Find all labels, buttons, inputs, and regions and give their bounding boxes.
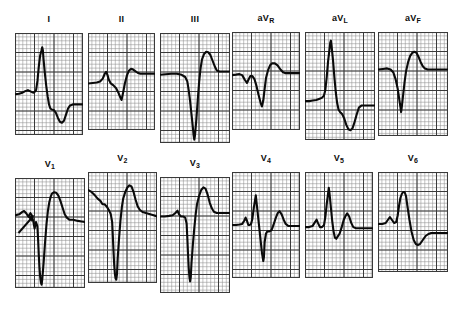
lead-label-v3: V3 xyxy=(160,158,230,169)
grid-fine xyxy=(305,172,373,278)
ecg-panel-v4 xyxy=(232,172,300,278)
ecg-grid-and-trace xyxy=(305,32,375,140)
ecg-panel-v5 xyxy=(305,172,373,278)
ecg-panel-ii xyxy=(88,33,155,130)
ecg-grid-and-trace xyxy=(232,32,300,130)
lead-label-subscript: 3 xyxy=(196,162,200,169)
lead-label-text: I xyxy=(48,14,51,24)
ecg-grid-and-trace xyxy=(305,172,373,278)
ecg-grid-and-trace xyxy=(88,172,157,283)
ecg-trace-avr xyxy=(232,63,300,106)
lead-label-ii: II xyxy=(88,14,155,24)
ecg-grid-and-trace xyxy=(15,33,83,135)
ecg-panel-avf xyxy=(378,32,448,136)
grid-fine xyxy=(15,178,85,288)
lead-label-subscript: 6 xyxy=(414,157,418,164)
lead-label-avr: aVR xyxy=(232,13,300,24)
ecg-panel-v1 xyxy=(15,178,85,288)
ecg-grid-and-trace xyxy=(160,177,230,293)
lead-label-avl: aVL xyxy=(305,13,375,24)
ecg-panel-v3 xyxy=(160,177,230,293)
grid-bold xyxy=(305,172,373,278)
grid-fine xyxy=(378,32,448,136)
lead-label-subscript: 4 xyxy=(267,157,271,164)
lead-label-v4: V4 xyxy=(232,153,300,164)
ecg-grid-and-trace xyxy=(232,172,300,278)
ecg-figure: IIIIIIaVRaVLaVFV1V2V3V4V5V6 xyxy=(0,0,461,311)
lead-label-v1: V1 xyxy=(15,159,85,170)
lead-label-text: aV xyxy=(332,13,344,23)
ecg-panel-iii xyxy=(160,33,230,143)
ecg-panel-v2 xyxy=(88,172,157,283)
ecg-trace-v4 xyxy=(232,195,300,261)
ecg-grid-and-trace xyxy=(378,32,448,136)
arrow-marker-v1 xyxy=(19,215,34,233)
ecg-panel-v6 xyxy=(378,172,448,272)
lead-label-v2: V2 xyxy=(88,153,157,164)
lead-label-i: I xyxy=(15,14,83,24)
grid-bold xyxy=(15,33,83,135)
ecg-panel-i xyxy=(15,33,83,135)
ecg-panel-avr xyxy=(232,32,300,130)
lead-label-text: III xyxy=(191,14,199,24)
ecg-panel-avl xyxy=(305,32,375,140)
grid-bold xyxy=(88,172,157,283)
lead-label-subscript: R xyxy=(269,17,274,24)
grid-fine xyxy=(305,32,375,140)
grid-fine xyxy=(15,33,83,135)
lead-label-subscript: 5 xyxy=(340,157,344,164)
lead-label-v6: V6 xyxy=(378,153,448,164)
lead-label-iii: III xyxy=(160,14,230,24)
lead-label-text: aV xyxy=(258,13,270,23)
lead-label-subscript: L xyxy=(344,17,349,24)
lead-label-subscript: 2 xyxy=(124,157,128,164)
lead-label-text: II xyxy=(119,14,125,24)
lead-label-subscript: F xyxy=(417,17,422,24)
lead-label-v5: V5 xyxy=(305,153,373,164)
grid-fine xyxy=(378,172,448,272)
lead-label-avf: aVF xyxy=(378,13,448,24)
ecg-grid-and-trace xyxy=(15,178,85,288)
lead-label-text: aV xyxy=(405,13,417,23)
ecg-grid-and-trace xyxy=(160,33,230,143)
ecg-grid-and-trace xyxy=(378,172,448,272)
lead-label-subscript: 1 xyxy=(51,163,55,170)
ecg-grid-and-trace xyxy=(88,33,155,130)
